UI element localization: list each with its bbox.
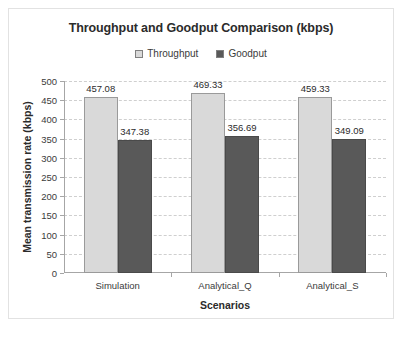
- bar-value-label: 457.08: [86, 83, 115, 94]
- plot-inner: 050100150200250300350400450500457.08347.…: [64, 81, 386, 273]
- bar: [332, 139, 366, 273]
- y-axis-tick-label: 400: [41, 114, 57, 125]
- y-axis-line: [64, 81, 65, 273]
- legend-label-goodput: Goodput: [228, 48, 266, 59]
- y-axis-tick-label: 300: [41, 152, 57, 163]
- bar: [298, 97, 332, 273]
- chart-title: Throughput and Goodput Comparison (kbps): [9, 21, 393, 35]
- bar-value-label: 349.09: [335, 125, 364, 136]
- legend-swatch-throughput-icon: [135, 50, 143, 58]
- bar-value-label: 356.69: [227, 122, 256, 133]
- y-axis-tick-label: 200: [41, 191, 57, 202]
- plot-area: 050100150200250300350400450500457.08347.…: [64, 81, 386, 273]
- x-axis-tick: [171, 273, 172, 277]
- bar-value-label: 347.38: [120, 126, 149, 137]
- bar: [225, 136, 259, 273]
- x-axis-title: Scenarios: [64, 299, 386, 311]
- bar-value-label: 469.33: [193, 79, 222, 90]
- y-axis-tick-label: 150: [41, 210, 57, 221]
- legend-swatch-goodput-icon: [216, 50, 224, 58]
- y-axis-tick-label: 350: [41, 133, 57, 144]
- y-axis-tick: [60, 273, 64, 274]
- y-axis-tick-label: 250: [41, 172, 57, 183]
- x-axis-tick-label: Analytical_Q: [198, 280, 251, 291]
- bar: [84, 97, 118, 273]
- y-axis-tick-label: 100: [41, 229, 57, 240]
- y-axis-tick-label: 500: [41, 76, 57, 87]
- y-axis-tick-label: 450: [41, 95, 57, 106]
- legend-item-goodput: Goodput: [216, 48, 266, 59]
- gridline: [64, 81, 386, 82]
- x-axis-tick-label: Simulation: [95, 280, 139, 291]
- bar: [191, 93, 225, 273]
- x-axis-tick: [386, 273, 387, 277]
- legend-label-throughput: Throughput: [147, 48, 198, 59]
- chart-legend: Throughput Goodput: [9, 48, 393, 59]
- bar: [118, 140, 152, 273]
- y-axis-title: Mean transmission rate (kbps): [21, 81, 35, 273]
- chart-frame: Throughput and Goodput Comparison (kbps)…: [8, 8, 394, 319]
- bar-value-label: 459.33: [301, 83, 330, 94]
- x-axis-tick: [279, 273, 280, 277]
- y-axis-tick-label: 50: [46, 248, 57, 259]
- legend-item-throughput: Throughput: [135, 48, 198, 59]
- x-axis-tick-label: Analytical_S: [306, 280, 358, 291]
- y-axis-tick-label: 0: [52, 268, 57, 279]
